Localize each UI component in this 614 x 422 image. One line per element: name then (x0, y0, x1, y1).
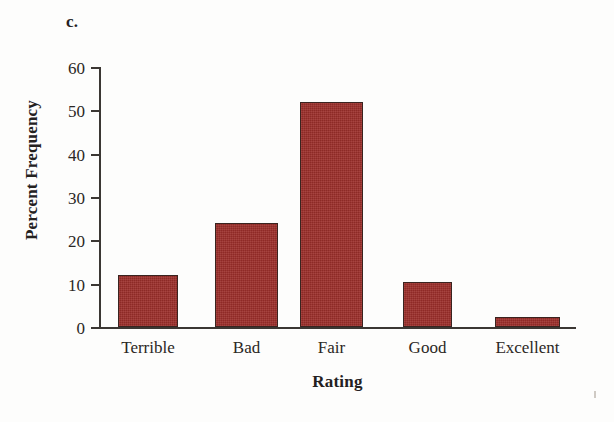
plot-area: 0102030405060 TerribleBadFairGoodExcelle… (100, 67, 575, 327)
x-tick-label-fair: Fair (318, 339, 345, 356)
y-tick-label: 30 (68, 190, 85, 207)
y-tick-label: 0 (77, 320, 86, 337)
panel-label: c. (66, 12, 78, 32)
bar-good (403, 282, 452, 327)
y-tick-mark: 30 (91, 197, 100, 199)
y-tick-mark: 0 (91, 327, 100, 329)
y-tick-label: 20 (68, 233, 85, 250)
y-tick-mark: 60 (91, 67, 100, 69)
x-tick-label-terrible: Terrible (121, 339, 175, 356)
x-tick-label-good: Good (409, 339, 447, 356)
bar-terrible (118, 275, 178, 327)
y-tick-label: 10 (68, 276, 85, 293)
scan-artifact (594, 391, 596, 398)
y-tick-mark: 20 (91, 240, 100, 242)
y-tick-label: 40 (68, 146, 85, 163)
x-tick-label-bad: Bad (233, 339, 260, 356)
bar-bad (215, 223, 278, 327)
y-tick-label: 60 (68, 60, 85, 77)
y-tick-mark: 40 (91, 154, 100, 156)
x-axis-title: Rating (100, 372, 575, 392)
y-tick-mark: 10 (91, 284, 100, 286)
bar-fair (300, 102, 363, 327)
y-tick-label: 50 (68, 103, 85, 120)
x-axis-line (99, 327, 576, 329)
bar-excellent (495, 317, 560, 327)
bar-chart-figure: c. 0102030405060 TerribleBadFairGoodExce… (0, 0, 614, 422)
x-tick-label-excellent: Excellent (495, 339, 559, 356)
y-axis-title: Percent Frequency (22, 40, 44, 300)
y-tick-mark: 50 (91, 110, 100, 112)
